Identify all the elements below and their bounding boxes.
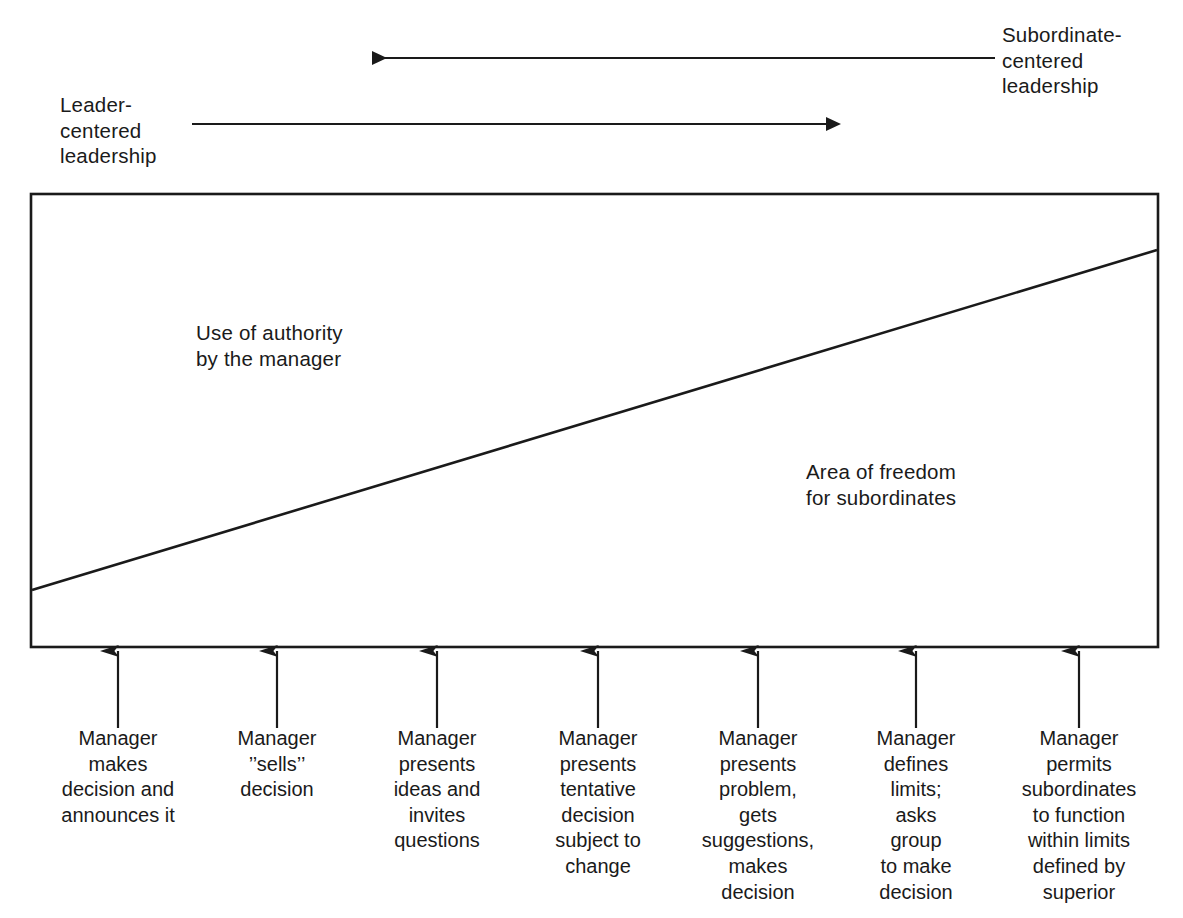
style-pointer-arrows [118,651,1079,728]
style-caption-1: Manager makes decision and announces it [37,726,199,828]
subordinate-centered-leadership-label: Subordinate- centered leadership [1002,22,1182,99]
area-of-freedom-label: Area of freedom for subordinates [806,459,1106,511]
style-caption-6: Manager defines limits; asks group to ma… [835,726,997,905]
style-caption-3: Manager presents ideas and invites quest… [356,726,518,854]
diagonal-divider [32,250,1157,590]
use-of-authority-label: Use of authority by the manager [196,320,496,372]
continuum-box [31,194,1158,647]
top-axis-arrows [192,58,995,124]
style-caption-4: Manager presents tentative decision subj… [517,726,679,880]
style-caption-5: Manager presents problem, gets suggestio… [677,726,839,905]
leadership-continuum-figure: Leader- centered leadership Subordinate-… [0,0,1183,918]
style-caption-2: Manager ’’sells’’ decision [196,726,358,803]
leader-centered-leadership-label: Leader- centered leadership [60,92,240,169]
leadership-style-captions: Manager makes decision and announces it … [0,726,1183,918]
style-caption-7: Manager permits subordinates to function… [998,726,1160,905]
